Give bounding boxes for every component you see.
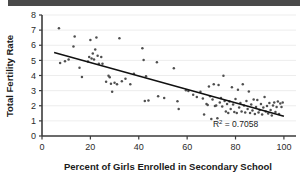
data-point <box>244 111 247 114</box>
data-point <box>89 39 92 42</box>
data-point <box>277 100 280 103</box>
data-point <box>245 100 248 103</box>
data-point <box>176 100 179 103</box>
data-point <box>192 94 195 97</box>
data-point <box>116 83 119 86</box>
data-point <box>232 103 235 106</box>
r-squared-annotation: R2 = 0.7058 <box>213 119 258 129</box>
data-point <box>248 90 251 93</box>
x-tick-label: 40 <box>134 142 144 152</box>
y-tick-label: 7 <box>31 25 36 35</box>
y-tick-label: 5 <box>31 56 36 66</box>
data-point <box>144 100 147 103</box>
data-point <box>281 101 284 104</box>
data-point <box>262 106 265 109</box>
x-tick-label: 0 <box>39 142 44 152</box>
x-tick-label: 100 <box>276 142 291 152</box>
data-point <box>227 112 230 115</box>
data-point <box>100 56 103 59</box>
chart-figure: 012345678 020406080100 Total Fertility R… <box>0 0 306 176</box>
r-squared-value: = 0.7058 <box>222 119 258 129</box>
data-point <box>208 85 211 88</box>
data-point <box>280 106 283 109</box>
data-point <box>113 82 116 85</box>
data-point <box>222 75 225 78</box>
data-point <box>257 111 260 114</box>
y-tick-label: 6 <box>31 40 36 50</box>
data-point <box>118 37 121 40</box>
data-point <box>279 102 282 105</box>
data-point <box>142 59 145 62</box>
y-axis-title: Total Fertility Rate <box>4 35 15 117</box>
data-point <box>271 114 274 117</box>
y-tick-label: 2 <box>31 101 36 111</box>
data-point <box>59 62 62 65</box>
data-point <box>221 105 224 108</box>
data-point <box>260 103 263 106</box>
data-point <box>94 48 97 51</box>
data-point <box>81 76 84 79</box>
data-point <box>215 104 218 107</box>
data-point <box>233 111 236 114</box>
data-point <box>229 108 232 111</box>
data-point <box>263 96 266 99</box>
data-point <box>240 110 243 113</box>
data-point <box>235 112 238 115</box>
y-tick-label: 4 <box>31 71 36 81</box>
data-point <box>196 96 199 99</box>
data-point <box>256 99 259 102</box>
data-point <box>219 101 222 104</box>
data-point <box>238 106 241 109</box>
data-point <box>67 58 70 61</box>
data-point <box>261 113 264 116</box>
data-point <box>147 99 150 102</box>
data-point <box>88 56 91 59</box>
data-point <box>58 27 61 30</box>
data-point <box>231 86 234 89</box>
data-point <box>93 58 96 61</box>
data-point <box>96 55 99 58</box>
x-tick-label: 80 <box>231 142 241 152</box>
data-point <box>242 83 245 86</box>
x-tick-label: 60 <box>182 142 192 152</box>
data-point <box>251 109 254 112</box>
data-point <box>234 98 237 101</box>
trendline <box>54 53 284 117</box>
data-point <box>273 101 276 104</box>
data-point <box>213 83 216 86</box>
data-point <box>64 60 67 63</box>
data-point <box>254 113 257 116</box>
data-point <box>246 108 249 111</box>
data-point <box>90 57 93 60</box>
data-point <box>129 83 132 86</box>
y-tick-label: 1 <box>31 116 36 126</box>
data-point <box>78 66 81 69</box>
data-point <box>269 109 272 112</box>
x-axis-title: Percent of Girls Enrolled in Secondary S… <box>64 161 272 172</box>
data-point <box>156 61 159 64</box>
data-point <box>141 47 144 50</box>
data-point <box>272 104 275 107</box>
data-point <box>111 91 114 94</box>
x-axis-ticks: 020406080100 <box>39 136 291 152</box>
data-point <box>72 45 75 48</box>
data-point <box>211 98 214 101</box>
data-point <box>266 105 269 108</box>
data-point <box>250 103 253 106</box>
data-point <box>217 84 220 87</box>
scatter-chart: 012345678 020406080100 Total Fertility R… <box>0 0 306 176</box>
data-point <box>163 97 166 100</box>
data-point <box>108 76 111 79</box>
data-point <box>124 78 127 81</box>
data-point <box>105 81 108 84</box>
data-point <box>95 36 98 39</box>
data-point <box>206 104 209 107</box>
y-axis-ticks: 012345678 <box>31 10 42 141</box>
data-point <box>121 80 124 83</box>
plot-svg: 012345678 020406080100 Total Fertility R… <box>0 0 306 176</box>
data-point <box>249 112 252 115</box>
data-point <box>225 110 228 113</box>
data-point <box>226 103 229 106</box>
data-point <box>110 83 113 86</box>
data-point <box>275 106 278 109</box>
